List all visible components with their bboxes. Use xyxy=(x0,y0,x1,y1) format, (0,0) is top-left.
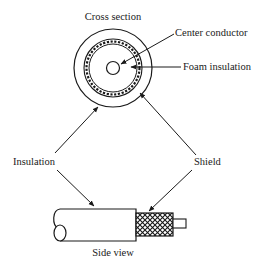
insulation-label: Insulation xyxy=(13,156,56,167)
side-view-cable xyxy=(54,209,186,241)
cross-section-title: Cross section xyxy=(85,11,142,22)
cross-section xyxy=(74,29,152,107)
insulation-arrow-cross-section xyxy=(55,107,98,153)
foam-insulation-label: Foam insulation xyxy=(183,61,252,72)
shield-arrow-cross-section xyxy=(140,93,196,155)
center-conductor-label: Center conductor xyxy=(175,27,248,38)
insulation-arrow-side-view xyxy=(57,170,94,206)
center-conductor-arrow xyxy=(121,34,174,64)
coax-cable-diagram: Cross section Center conductor Foam insu… xyxy=(0,0,270,267)
center-conductor-circle xyxy=(107,62,120,75)
shield-braid xyxy=(136,213,173,236)
shield-label: Shield xyxy=(194,156,222,167)
side-view-title: Side view xyxy=(92,247,134,258)
cable-jacket-cut-end xyxy=(54,225,66,241)
cable-jacket xyxy=(60,209,136,241)
shield-arrow-side-view xyxy=(149,170,192,211)
center-conductor-pin xyxy=(173,219,186,228)
